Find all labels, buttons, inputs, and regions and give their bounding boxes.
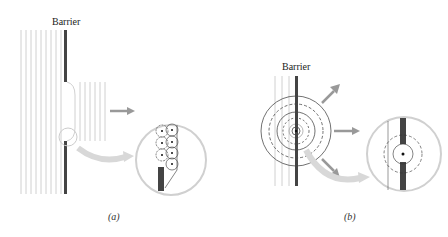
panel-a-propagation-arrow bbox=[110, 107, 135, 115]
panel-a-detail-marker bbox=[59, 128, 77, 146]
panel-b-caption: (b) bbox=[344, 211, 356, 222]
panel-a-barrier bbox=[64, 30, 67, 194]
diffraction-diagram bbox=[0, 0, 448, 237]
panel-b-barrier-label: Barrier bbox=[282, 61, 310, 72]
panel-a-incident-waves bbox=[21, 30, 61, 194]
panel-b-arrows bbox=[322, 84, 360, 178]
panel-a-zoom-arrow bbox=[78, 148, 125, 160]
panel-a-caption: (a) bbox=[108, 211, 120, 222]
panel-a-magnifier bbox=[136, 124, 206, 195]
panel-b-zoom-arrow bbox=[306, 150, 360, 179]
panel-b-magnifier bbox=[367, 117, 441, 191]
panel-a-transmitted-waves bbox=[67, 82, 105, 141]
panel-a-barrier-label: Barrier bbox=[52, 16, 80, 27]
